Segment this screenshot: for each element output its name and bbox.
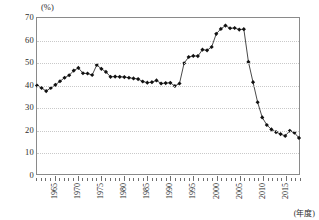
x-axis-minor-tick bbox=[59, 178, 60, 181]
x-axis-minor-tick bbox=[226, 178, 227, 181]
x-axis-minor-tick bbox=[161, 178, 162, 181]
x-axis-minor-tick bbox=[129, 178, 130, 181]
x-axis-minor-tick bbox=[73, 178, 74, 181]
gridline bbox=[37, 153, 299, 154]
data-point-marker bbox=[85, 71, 89, 75]
data-point-marker bbox=[242, 27, 246, 31]
gridline bbox=[37, 41, 299, 42]
x-axis-minor-tick bbox=[50, 178, 51, 181]
x-axis-minor-tick bbox=[249, 178, 250, 181]
x-axis-tick-label: 1965 bbox=[51, 183, 59, 199]
data-point-marker bbox=[113, 75, 117, 79]
x-axis-minor-tick bbox=[277, 178, 278, 181]
x-axis-minor-tick bbox=[68, 178, 69, 181]
x-axis-minor-tick bbox=[203, 178, 204, 181]
x-axis-major-tick bbox=[286, 176, 287, 181]
data-point-marker bbox=[145, 81, 149, 85]
x-axis-tick-label: 1980 bbox=[120, 183, 128, 199]
data-point-marker bbox=[90, 73, 94, 77]
x-axis-minor-tick bbox=[119, 178, 120, 181]
data-point-marker bbox=[260, 115, 264, 119]
x-axis-minor-tick bbox=[198, 178, 199, 181]
data-point-marker bbox=[279, 132, 283, 136]
x-axis-minor-tick bbox=[87, 178, 88, 181]
x-axis-major-tick bbox=[124, 176, 125, 181]
x-axis-minor-tick bbox=[231, 178, 232, 181]
x-axis-tick-label: 2010 bbox=[259, 183, 267, 199]
y-axis-tick-label: 20 bbox=[4, 126, 34, 135]
x-axis-minor-tick bbox=[82, 178, 83, 181]
data-point-marker bbox=[191, 54, 195, 58]
x-axis-major-tick bbox=[263, 176, 264, 181]
gridline bbox=[37, 131, 299, 132]
x-axis-minor-tick bbox=[152, 178, 153, 181]
x-axis-major-tick bbox=[78, 176, 79, 181]
x-axis-tick-label: 1985 bbox=[143, 183, 151, 199]
x-axis-minor-tick bbox=[166, 178, 167, 181]
data-point-marker bbox=[131, 76, 135, 80]
data-point-marker bbox=[127, 76, 131, 80]
x-axis-minor-tick bbox=[258, 178, 259, 181]
x-axis-tick-label: 1995 bbox=[189, 183, 197, 199]
x-axis-minor-tick bbox=[221, 178, 222, 181]
y-axis-tick-label: 30 bbox=[4, 103, 34, 112]
x-axis-unit-label: (年度) bbox=[294, 209, 315, 218]
x-axis-minor-tick bbox=[207, 178, 208, 181]
x-axis-minor-tick bbox=[281, 178, 282, 181]
y-axis-tick-label: 50 bbox=[4, 58, 34, 67]
data-point-marker bbox=[228, 26, 232, 30]
data-point-marker bbox=[122, 75, 126, 79]
x-axis-tick-label: 1970 bbox=[74, 183, 82, 199]
chart-screenshot: (%) 010203040506070 (年度) 196519701975198… bbox=[0, 0, 319, 220]
x-axis-major-tick bbox=[147, 176, 148, 181]
x-axis-minor-tick bbox=[272, 178, 273, 181]
series-polyline bbox=[37, 26, 299, 138]
x-axis-major-tick bbox=[240, 176, 241, 181]
x-axis-minor-tick bbox=[105, 178, 106, 181]
y-axis-tick-label: 40 bbox=[4, 81, 34, 90]
x-axis-minor-tick bbox=[64, 178, 65, 181]
data-point-marker bbox=[233, 26, 237, 30]
x-axis-minor-tick bbox=[254, 178, 255, 181]
x-axis-tick-label: 2000 bbox=[213, 183, 221, 199]
y-axis-tick-label: 10 bbox=[4, 148, 34, 157]
x-axis-minor-tick bbox=[189, 178, 190, 181]
x-axis-major-tick bbox=[55, 176, 56, 181]
data-point-marker bbox=[118, 75, 122, 79]
gridline bbox=[37, 86, 299, 87]
gridline bbox=[37, 63, 299, 64]
x-axis-minor-tick bbox=[300, 178, 301, 181]
x-axis-minor-tick bbox=[45, 178, 46, 181]
x-axis-minor-tick bbox=[110, 178, 111, 181]
x-axis-minor-tick bbox=[92, 178, 93, 181]
y-axis-tick-label: 0 bbox=[4, 171, 34, 180]
x-axis-minor-tick bbox=[138, 178, 139, 181]
data-point-marker bbox=[150, 80, 154, 84]
x-axis-tick-label: 1990 bbox=[166, 183, 174, 199]
x-axis-minor-tick bbox=[212, 178, 213, 181]
y-axis-tick-label: 70 bbox=[4, 13, 34, 22]
x-axis-minor-tick bbox=[184, 178, 185, 181]
x-axis-minor-tick bbox=[180, 178, 181, 181]
y-axis-labels: 010203040506070 bbox=[0, 0, 34, 220]
data-point-marker bbox=[237, 28, 241, 32]
x-axis-major-tick bbox=[193, 176, 194, 181]
x-axis-minor-tick bbox=[143, 178, 144, 181]
x-axis-minor-tick bbox=[244, 178, 245, 181]
x-axis-minor-tick bbox=[156, 178, 157, 181]
data-point-marker bbox=[136, 77, 140, 81]
plot-area bbox=[36, 17, 300, 175]
y-axis-unit-label: (%) bbox=[41, 3, 54, 12]
y-axis-tick-label: 60 bbox=[4, 36, 34, 45]
x-axis-tick-label: 2005 bbox=[236, 183, 244, 199]
x-axis-minor-tick bbox=[115, 178, 116, 181]
x-axis-major-tick bbox=[217, 176, 218, 181]
x-axis-tick-label: 1975 bbox=[97, 183, 105, 199]
data-point-marker bbox=[141, 79, 145, 83]
x-axis-minor-tick bbox=[235, 178, 236, 181]
x-axis-minor-tick bbox=[291, 178, 292, 181]
x-axis-ticks bbox=[36, 175, 300, 181]
data-point-marker bbox=[256, 100, 260, 104]
data-point-marker bbox=[164, 81, 168, 85]
x-axis-major-tick bbox=[170, 176, 171, 181]
